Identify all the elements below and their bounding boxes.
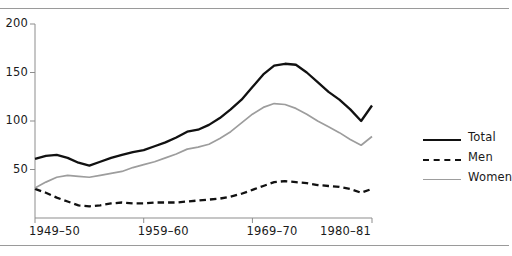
legend-label-men: Men	[468, 152, 493, 164]
legend-swatch-total-icon	[423, 139, 461, 141]
x-tick-label: 1949–50	[29, 226, 80, 238]
y-tick-label: 200	[0, 18, 28, 30]
legend-swatch-women-icon	[423, 179, 461, 180]
series-line-men	[35, 181, 372, 206]
chart-legend: Total Men Women	[423, 130, 509, 190]
legend-label-women: Women	[468, 172, 512, 184]
y-tick-label: 150	[0, 67, 28, 79]
legend-swatch-men-icon	[423, 159, 461, 161]
x-tick-label: 1980–81	[320, 226, 371, 238]
y-tick-label: 50	[0, 164, 28, 176]
bottom-rule	[0, 245, 509, 246]
line-chart-plot	[0, 0, 420, 240]
legend-item-women[interactable]: Women	[423, 170, 509, 190]
legend-label-total: Total	[468, 132, 496, 144]
series-line-total	[35, 64, 372, 166]
legend-item-total[interactable]: Total	[423, 130, 509, 150]
y-tick-label: 100	[0, 115, 28, 127]
series-lines	[35, 64, 372, 207]
series-line-women	[35, 104, 372, 188]
x-tick-label: 1959–60	[138, 226, 189, 238]
x-tick-label: 1969–70	[246, 226, 297, 238]
legend-item-men[interactable]: Men	[423, 150, 509, 170]
